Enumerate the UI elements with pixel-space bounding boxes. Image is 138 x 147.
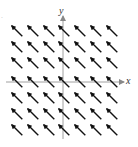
- vector-arrow: [91, 93, 102, 104]
- vector-arrow: [28, 26, 39, 37]
- vector-arrow: [107, 42, 118, 53]
- vector-arrow: [107, 125, 118, 136]
- vector-arrow: [12, 42, 23, 53]
- vector-arrow: [107, 93, 118, 104]
- vector-arrow: [75, 93, 86, 104]
- vector-arrow: [75, 58, 86, 69]
- vector-arrow: [44, 42, 55, 53]
- vector-arrow: [59, 58, 70, 69]
- vector-arrow: [12, 93, 23, 104]
- vector-arrow: [28, 125, 39, 136]
- vector-arrow: [59, 26, 70, 37]
- vector-arrow: [44, 93, 55, 104]
- vector-arrow: [28, 109, 39, 120]
- vector-arrow: [91, 42, 102, 53]
- vector-arrow: [44, 109, 55, 120]
- vector-arrow: [59, 42, 70, 53]
- vector-arrow: [91, 58, 102, 69]
- axes: [6, 16, 124, 139]
- vector-arrow: [28, 42, 39, 53]
- vector-arrow: [91, 26, 102, 37]
- vector-arrow: [28, 58, 39, 69]
- corner-mark: .: [1, 12, 3, 19]
- vector-arrow: [12, 58, 23, 69]
- arrow-grid: [12, 26, 118, 136]
- vector-arrow: [59, 109, 70, 120]
- vector-arrow: [75, 42, 86, 53]
- vector-arrow: [107, 58, 118, 69]
- vector-arrow: [59, 125, 70, 136]
- vector-field-plot: [0, 0, 138, 147]
- vector-arrow: [91, 109, 102, 120]
- vector-arrow: [12, 26, 23, 37]
- vector-arrow: [44, 58, 55, 69]
- vector-arrow: [75, 109, 86, 120]
- x-axis-label: x: [126, 75, 130, 86]
- y-axis-label: y: [59, 5, 63, 16]
- vector-arrow: [28, 93, 39, 104]
- vector-arrow: [12, 125, 23, 136]
- vector-arrow: [107, 109, 118, 120]
- vector-arrow: [59, 93, 70, 104]
- vector-arrow: [44, 125, 55, 136]
- vector-arrow: [91, 125, 102, 136]
- vector-arrow: [107, 26, 118, 37]
- vector-arrow: [75, 26, 86, 37]
- vector-arrow: [44, 26, 55, 37]
- vector-arrow: [12, 109, 23, 120]
- vector-arrow: [75, 125, 86, 136]
